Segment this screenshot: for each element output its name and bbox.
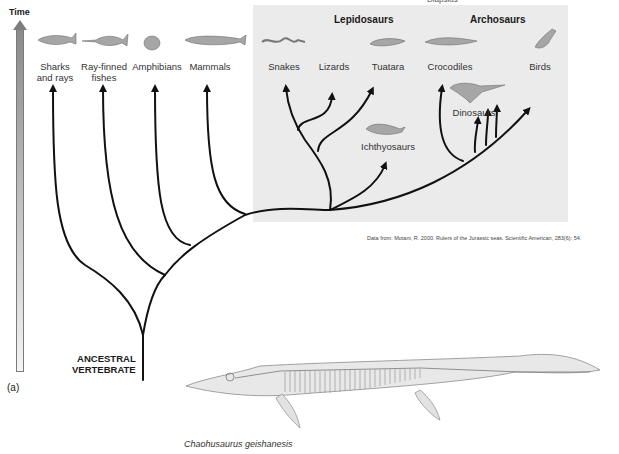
- crocodile-icon: [425, 38, 477, 45]
- root-label-line: ANCESTRAL: [72, 353, 136, 364]
- taxon-line: fishes: [81, 72, 127, 83]
- fossil-skeleton-illustration: [186, 354, 600, 428]
- dinosaur-icon: [450, 83, 505, 103]
- taxon-label-sharks: Sharks and rays: [37, 61, 73, 83]
- root-label: ANCESTRAL VERTEBRATE: [72, 353, 136, 375]
- data-citation: Data from: Motani, R. 2000. Rulers of th…: [367, 235, 581, 241]
- taxon-label-birds: Birds: [529, 61, 551, 72]
- whale-icon: [185, 35, 246, 45]
- snake-icon: [262, 38, 305, 42]
- taxon-line: Sharks: [37, 61, 73, 72]
- swordfish-icon: [82, 34, 128, 46]
- frog-icon: [144, 36, 160, 50]
- shark-icon: [38, 33, 76, 44]
- taxon-label-mammals: Mammals: [189, 61, 230, 72]
- ichthyosaur-icon: [366, 124, 405, 134]
- taxon-label-tuatara: Tuatara: [372, 61, 404, 72]
- taxon-label-amphibians: Amphibians: [132, 61, 182, 72]
- tuatara-icon: [370, 39, 405, 46]
- time-arrowhead-icon: [13, 20, 27, 30]
- taxon-label-ray-finned-fishes: Ray-finned fishes: [81, 61, 127, 83]
- panel-label: (a): [7, 382, 19, 393]
- taxon-label-lizards: Lizards: [319, 61, 350, 72]
- specimen-caption: Chaohusaurus geishanesis: [184, 439, 293, 449]
- taxon-label-snakes: Snakes: [268, 61, 300, 72]
- taxon-label-crocodiles: Crocodiles: [428, 61, 473, 72]
- root-label-line: VERTEBRATE: [72, 364, 136, 375]
- taxon-line: Ray-finned: [81, 61, 127, 72]
- taxon-label-dinosaurs: Dinosaurs: [453, 107, 496, 118]
- bird-icon: [535, 29, 556, 48]
- taxon-line: and rays: [37, 72, 73, 83]
- taxon-label-ichthyosaurs: Ichthyosaurs: [361, 141, 415, 152]
